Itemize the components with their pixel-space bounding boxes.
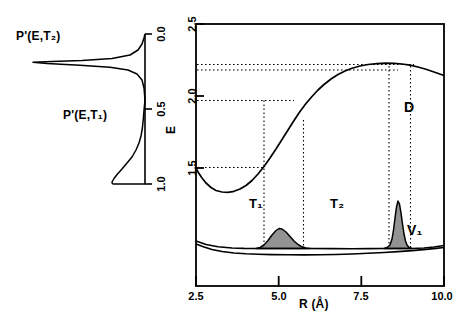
label-curve-v1: V₁ [407,222,423,238]
inset-tick-label-2: 1.0 [155,171,167,197]
y-tick-label-1: 2.0 [186,81,198,111]
axis-title-y: E [164,126,178,134]
x-tick-label-0: 2.5 [180,290,212,302]
inset-curve-prob-t2 [33,34,145,100]
label-curve-d: D [404,99,414,115]
inset-tick-label-0: 0.0 [155,21,167,47]
label-prob-t2: P'(E,T₂) [16,29,60,43]
label-peak-t1: T₁ [249,196,263,211]
shaded-peak-t1 [256,229,310,249]
axis-title-x: R (Å) [299,297,329,311]
label-peak-t2: T₂ [330,196,344,211]
inset-curve-prob-t1 [112,100,145,184]
x-tick-label-2: 7.5 [345,290,377,302]
y-tick-label-2: 1.5 [186,153,198,183]
figure-root: 0.0 0.5 1.0 P'(E,T₂) P'(E,T₁) [0,0,458,321]
curve-D [196,63,444,192]
main-plot [192,8,450,298]
inset-tick-label-1: 0.5 [155,96,167,122]
y-tick-label-0: 2.5 [186,9,198,39]
label-prob-t1: P'(E,T₁) [63,108,107,122]
x-tick-label-1: 5.0 [263,290,295,302]
x-tick-label-3: 10.0 [424,290,458,302]
